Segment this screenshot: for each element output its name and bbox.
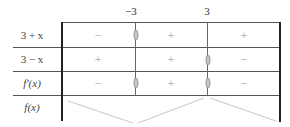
variation-curve-icon: [0, 0, 290, 127]
